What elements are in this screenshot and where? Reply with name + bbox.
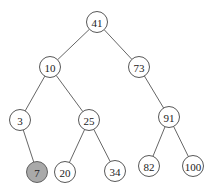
tree-node-91: 91	[159, 107, 180, 128]
edge-41-10	[58, 29, 90, 59]
nodes: 411073325917203482100	[10, 12, 204, 183]
edge-91-100	[174, 126, 189, 156]
node-label: 10	[45, 62, 57, 74]
tree-diagram: 411073325917203482100	[0, 0, 215, 193]
edge-3-7	[23, 130, 33, 162]
node-label: 7	[34, 167, 40, 179]
tree-node-41: 41	[87, 12, 108, 33]
tree-node-82: 82	[139, 156, 160, 177]
edge-25-20	[69, 130, 84, 163]
node-label: 20	[60, 167, 72, 179]
tree-node-3: 3	[10, 110, 31, 131]
tree-node-7: 7	[27, 162, 48, 183]
tree-node-20: 20	[55, 162, 76, 183]
node-label: 41	[92, 17, 103, 29]
node-label: 34	[110, 166, 122, 178]
node-label: 73	[134, 62, 146, 74]
edge-73-91	[144, 76, 163, 108]
edges	[23, 29, 188, 162]
node-label: 91	[164, 112, 175, 124]
node-label: 3	[17, 115, 23, 127]
edge-10-3	[25, 76, 45, 111]
tree-node-100: 100	[183, 156, 204, 177]
node-label: 25	[84, 115, 96, 127]
edge-10-25	[56, 75, 83, 111]
edge-25-34	[94, 129, 110, 161]
edge-91-82	[153, 127, 165, 157]
tree-node-73: 73	[129, 57, 150, 78]
node-label: 100	[185, 161, 202, 173]
tree-node-34: 34	[105, 161, 126, 182]
tree-node-10: 10	[40, 57, 61, 78]
tree-node-25: 25	[79, 110, 100, 131]
edge-41-73	[104, 30, 132, 60]
node-label: 82	[144, 161, 155, 173]
